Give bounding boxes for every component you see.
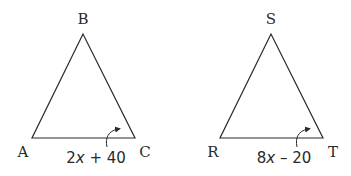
vertex-label-c: C — [139, 143, 150, 161]
diagram-canvas: B A C 2x + 40 S R T 8x – 20 — [0, 0, 351, 176]
vertex-label-b: B — [77, 10, 88, 28]
triangle-abc-shape — [32, 34, 135, 138]
vertex-label-s: S — [266, 10, 276, 28]
triangle-rst-shape — [220, 34, 323, 138]
triangle-rst: S R T 8x – 20 — [207, 10, 338, 167]
vertex-label-r: R — [207, 143, 219, 161]
angle-t-expression: 8x – 20 — [257, 149, 312, 167]
vertex-label-a: A — [17, 143, 29, 161]
vertex-label-t: T — [328, 143, 338, 161]
angle-c-expression: 2x + 40 — [66, 149, 126, 167]
triangle-abc: B A C 2x + 40 — [17, 10, 151, 167]
